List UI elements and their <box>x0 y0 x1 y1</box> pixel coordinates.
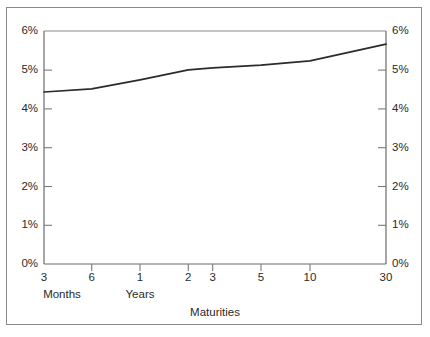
y-tick-label-left-0: 0% <box>4 258 38 270</box>
x-group-label-years: Years <box>106 289 174 301</box>
yield-curve-plot <box>0 0 430 337</box>
y-tick-label-left-1: 1% <box>4 219 38 231</box>
y-tick-label-right-4: 4% <box>392 103 426 115</box>
y-tick-label-left-3: 3% <box>4 142 38 154</box>
y-tick-label-right-6: 6% <box>392 25 426 37</box>
y-tick-label-left-4: 4% <box>4 103 38 115</box>
y-tick-label-left-2: 2% <box>4 181 38 193</box>
x-tick-label-3-years: 3 <box>193 272 233 284</box>
yield-curve-line <box>44 44 386 92</box>
y-tick-label-right-2: 2% <box>392 181 426 193</box>
y-tick-label-right-1: 1% <box>392 219 426 231</box>
y-tick-label-right-3: 3% <box>392 142 426 154</box>
y-axis-right-ticks <box>378 70 386 225</box>
chart-figure: 6% 5% 4% 3% 2% 1% 0% 6% 5% 4% 3% 2% 1% 0… <box>0 0 430 337</box>
x-axis-title: Maturities <box>155 307 275 319</box>
x-tick-label-5-years: 5 <box>241 272 281 284</box>
x-tick-label-6-months: 6 <box>72 272 112 284</box>
y-tick-label-right-5: 5% <box>392 64 426 76</box>
y-axis-left-ticks <box>44 70 52 225</box>
y-tick-label-left-5: 5% <box>4 64 38 76</box>
x-tick-label-3-months: 3 <box>24 272 64 284</box>
y-tick-label-right-0: 0% <box>392 258 426 270</box>
x-axis-ticks <box>92 264 310 271</box>
y-tick-label-left-6: 6% <box>4 25 38 37</box>
x-group-label-months: Months <box>28 289 96 301</box>
x-tick-label-1-year: 1 <box>120 272 160 284</box>
x-tick-label-10-years: 10 <box>290 272 330 284</box>
x-tick-label-30-years: 30 <box>366 272 406 284</box>
